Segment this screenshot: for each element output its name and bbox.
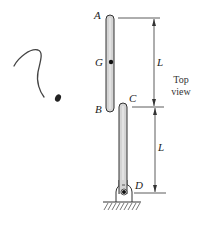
view-label: Top view <box>166 74 196 97</box>
label-point-d: D <box>135 180 143 191</box>
dimension-lower <box>153 108 157 192</box>
center-of-mass-g-marker <box>109 60 113 64</box>
view-label-line2: view <box>166 86 196 98</box>
ground-hatch <box>103 202 141 210</box>
dimension-label-lower: L <box>158 142 164 153</box>
label-point-b: B <box>95 104 102 115</box>
dimension-upper <box>152 19 156 106</box>
question-mark-icon <box>14 50 62 103</box>
label-point-a: A <box>94 10 101 21</box>
pin-support-d <box>116 180 132 202</box>
diagram-canvas: A G B C D L L Top view <box>0 0 199 229</box>
dimension-label-upper: L <box>157 57 163 68</box>
label-point-g: G <box>95 57 103 68</box>
label-point-c: C <box>129 93 136 104</box>
view-label-line1: Top <box>166 74 196 86</box>
